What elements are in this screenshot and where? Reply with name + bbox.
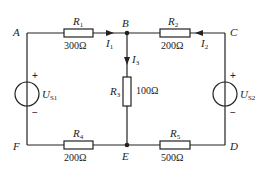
node-label-d: D	[230, 141, 238, 152]
resistor-r1-name: R1	[73, 16, 83, 29]
resistor-r3	[123, 77, 131, 106]
resistor-r4	[64, 141, 93, 149]
current-i3-label: I3	[132, 54, 139, 67]
resistor-r3-name: R3	[110, 86, 120, 99]
resistor-r2	[160, 29, 190, 37]
resistor-r2-name: R2	[168, 16, 178, 29]
circuit-diagram: A B C D E F R1 R2 R3 R4 R5 300Ω 200Ω 100…	[0, 0, 264, 174]
resistor-r2-value: 200Ω	[161, 41, 183, 51]
resistor-r4-value: 200Ω	[64, 153, 86, 163]
resistor-r5-name: R5	[170, 128, 180, 141]
resistor-r5	[160, 141, 190, 149]
source-us2-plus: +	[230, 71, 236, 81]
node-label-a: A	[13, 27, 20, 38]
arrow-i1-icon	[106, 30, 114, 36]
resistor-r4-name: R4	[73, 128, 83, 141]
source-us1-plus: +	[32, 71, 38, 81]
resistor-r1-value: 300Ω	[64, 41, 86, 51]
source-us2-minus: −	[230, 108, 236, 118]
source-us1-label: US1	[42, 89, 57, 102]
resistor-r3-value: 100Ω	[136, 86, 158, 96]
source-us1-minus: −	[32, 108, 38, 118]
node-label-e: E	[122, 151, 129, 162]
circuit-wires	[0, 0, 264, 174]
current-i1-label: I1	[106, 38, 113, 51]
node-label-f: F	[13, 141, 20, 152]
node-label-b: B	[122, 18, 129, 29]
resistor-r5-value: 500Ω	[161, 153, 183, 163]
current-i2-label: I2	[201, 38, 208, 51]
resistor-r1	[64, 29, 93, 37]
source-us2-label: US2	[240, 89, 255, 102]
node-label-c: C	[230, 27, 237, 38]
arrow-i2-icon	[195, 30, 203, 36]
arrow-i3-icon	[124, 57, 130, 65]
